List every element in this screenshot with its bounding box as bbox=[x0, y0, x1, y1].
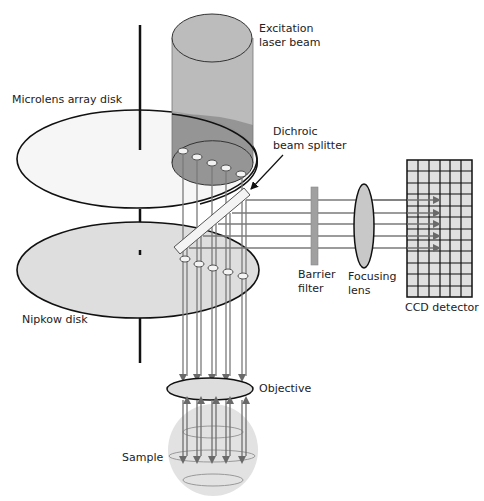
label-microlens-array-disk: Microlens array disk bbox=[12, 93, 122, 107]
label-ccd-detector: CCD detector bbox=[405, 301, 479, 315]
label-sample: Sample bbox=[122, 451, 163, 465]
sample bbox=[168, 404, 258, 496]
objective-lens bbox=[167, 378, 253, 400]
focusing-lens bbox=[354, 184, 374, 268]
label-excitation-line1: Excitation bbox=[259, 22, 314, 36]
barrier-filter bbox=[311, 187, 318, 265]
label-barrier-line1: Barrier bbox=[298, 268, 336, 282]
label-dichroic-line1: Dichroic bbox=[273, 125, 318, 139]
label-excitation-line2: laser beam bbox=[259, 36, 321, 50]
ccd-detector bbox=[407, 160, 472, 297]
spinning-disk-confocal-diagram: Excitation laser beam Microlens array di… bbox=[0, 0, 484, 501]
label-focusing-line1: Focusing bbox=[348, 270, 396, 284]
label-dichroic-line2: beam splitter bbox=[273, 139, 346, 153]
label-nipkow-disk: Nipkow disk bbox=[22, 313, 88, 327]
label-barrier-line2: filter bbox=[298, 282, 324, 296]
label-focusing-line2: lens bbox=[348, 284, 371, 298]
label-objective: Objective bbox=[259, 382, 311, 396]
